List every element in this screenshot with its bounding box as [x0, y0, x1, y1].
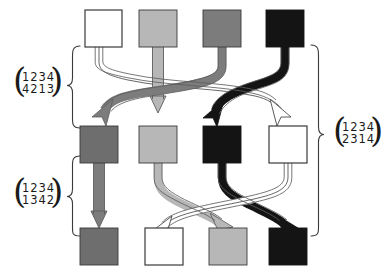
- arrow-outlines: [95, 47, 292, 229]
- node-row-bottom: [80, 228, 307, 265]
- node-top-4: [266, 10, 304, 47]
- node-top-3: [203, 10, 241, 47]
- permutation-diagram: ( 1234 4213 ) ( 1234 1342 ) ( 1234 2314 …: [0, 0, 390, 277]
- label-lower-left: ( 1234 1342 ): [13, 171, 63, 211]
- node-middle-2: [139, 126, 177, 163]
- label-right: ( 1234 2314 ): [333, 110, 383, 150]
- arrow-mediumgray-1-to-1: [91, 163, 107, 228]
- label-upper-left: ( 1234 4213 ): [13, 60, 63, 100]
- brace-right: [311, 45, 324, 236]
- arrow-group-middle-to-bottom: [91, 163, 298, 242]
- brace-lower-left: [67, 156, 80, 236]
- node-bottom-2: [145, 228, 183, 265]
- node-bottom-1: [80, 228, 118, 265]
- arrow-lightgray-2-to-2: [150, 47, 166, 113]
- node-top-1: [85, 10, 122, 47]
- arrow-group-top-to-middle: [92, 47, 291, 127]
- node-bottom-3: [209, 228, 247, 265]
- node-middle-4: [269, 126, 307, 163]
- node-row-top: [85, 10, 304, 47]
- paren-right-right: ): [370, 110, 383, 150]
- paren-right-lower: ): [50, 171, 63, 211]
- node-middle-3: [203, 126, 241, 163]
- node-bottom-4: [269, 228, 307, 265]
- paren-right-upper: ): [50, 60, 63, 100]
- brace-upper-left: [67, 46, 80, 128]
- node-middle-1: [80, 126, 118, 163]
- node-top-2: [139, 10, 177, 47]
- node-row-middle: [80, 126, 307, 163]
